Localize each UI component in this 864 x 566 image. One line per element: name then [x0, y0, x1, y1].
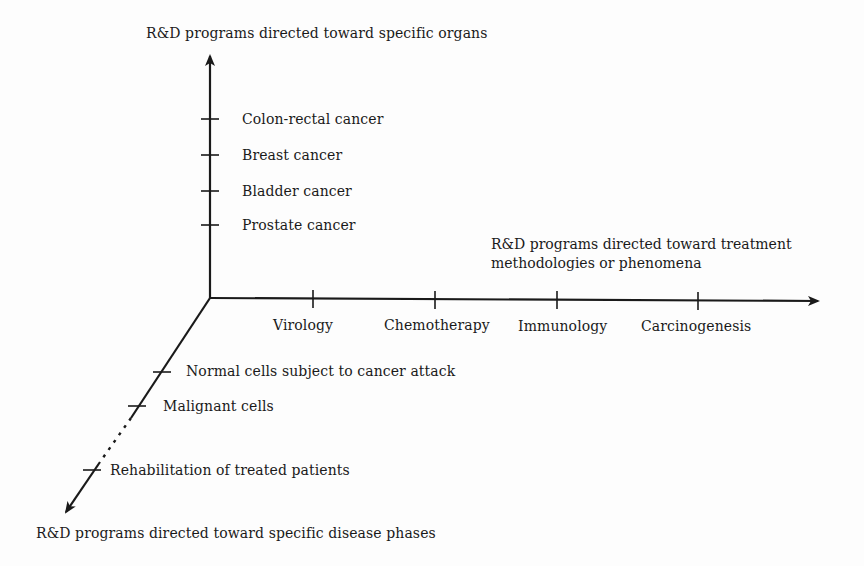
- tick-label-malignant-cells: Malignant cells: [163, 397, 274, 415]
- tick-label-prostate-cancer: Prostate cancer: [242, 216, 356, 234]
- tick-label-virology: Virology: [273, 316, 333, 334]
- tick-label-breast-cancer: Breast cancer: [242, 146, 342, 164]
- tick-label-colon-rectal-cancer: Colon-rectal cancer: [242, 110, 383, 128]
- diagonal-axis-title: R&D programs directed toward specific di…: [36, 524, 436, 542]
- horizontal-axis-title-line1: R&D programs directed toward treatment: [491, 235, 792, 254]
- horizontal-axis: [210, 290, 818, 310]
- tick-label-carcinogenesis: Carcinogenesis: [641, 317, 751, 335]
- vertical-axis-title: R&D programs directed toward specific or…: [146, 24, 487, 42]
- tick-label-rehabilitation: Rehabilitation of treated patients: [110, 461, 350, 479]
- tick-label-bladder-cancer: Bladder cancer: [242, 182, 352, 200]
- tick-label-normal-cells: Normal cells subject to cancer attack: [186, 362, 455, 380]
- tick-label-chemotherapy: Chemotherapy: [384, 316, 490, 334]
- horizontal-axis-title: R&D programs directed toward treatment m…: [491, 235, 792, 273]
- horizontal-axis-title-line2: methodologies or phenomena: [491, 254, 792, 273]
- vertical-axis: [201, 56, 219, 298]
- tick-label-immunology: Immunology: [518, 317, 607, 335]
- diagram-canvas: R&D programs directed toward specific or…: [0, 0, 864, 566]
- axes-drawing: [0, 0, 864, 566]
